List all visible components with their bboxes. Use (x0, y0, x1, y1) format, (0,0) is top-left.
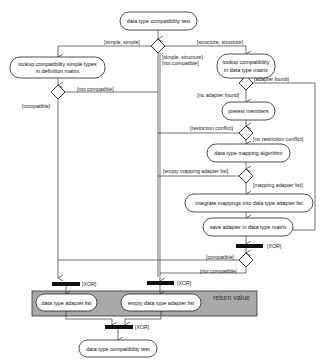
decision-type-check (151, 39, 165, 53)
guard-compatible-right: [compatible] (206, 254, 235, 260)
svg-text:pretest members: pretest members (228, 108, 269, 114)
guard-not-compatible-right: [not compatible] (200, 268, 237, 274)
decision-restriction (239, 126, 253, 140)
xor-label-left: [XOR] (82, 281, 97, 287)
xor-label-middle: [XOR] (177, 280, 192, 286)
guard-compatible-left: [compatible] (22, 103, 51, 109)
guard-structure-structure: [structure, structure] (197, 39, 244, 45)
decision-mapping-list (239, 169, 253, 183)
node-integrate-mappings: integrate mappings into data type adapte… (185, 194, 313, 212)
guard-no-adapter-found: [no adapter found] (197, 92, 240, 98)
svg-text:data type compatibility test: data type compatibility test (86, 346, 150, 352)
guard-no-restriction-conflict: [no restriction conflict] (253, 136, 304, 142)
node-lookup-simple: lookup compatibility simple types in def… (10, 57, 105, 78)
svg-text:lookup compatibility: lookup compatibility (222, 59, 269, 65)
svg-text:data type compatibility test: data type compatibility test (127, 18, 191, 24)
svg-text:in definition matrix: in definition matrix (36, 68, 80, 74)
node-mapping-algorithm: data type mapping algorithm (207, 144, 290, 162)
svg-text:data type mapping algorithm: data type mapping algorithm (214, 150, 283, 156)
xor-bar-left (52, 282, 80, 286)
guard-not-compatible-1: [not compatible] (162, 60, 199, 66)
xor-bar-bottom (105, 325, 133, 329)
node-adapter-list: data type adapter list (36, 294, 97, 311)
guard-simple-simple: [simple, simple] (104, 39, 140, 45)
xor-label-right: [XOR] (267, 243, 282, 249)
node-empty-adapter-list: empty data type adapter list (121, 294, 201, 311)
decision-final-compat (239, 253, 253, 267)
node-pretest-members: pretest members (222, 102, 275, 120)
xor-bar-right (236, 244, 263, 248)
svg-text:integrate mappings into data t: integrate mappings into data type adapte… (195, 200, 303, 206)
guard-empty-mapping-adapter-list: [empty mapping adapter list] (163, 168, 229, 174)
guard-mapping-adapter-list: [mapping adapter list] (253, 182, 303, 188)
svg-text:data type adapter list: data type adapter list (41, 300, 92, 306)
decision-simple-compat (51, 85, 65, 99)
node-save-adapter: save adapter in data type matrix (203, 218, 293, 236)
svg-text:lookup compatibility simple ty: lookup compatibility simple types (18, 61, 97, 67)
guard-restriction-conflict: [restriction conflict] (190, 125, 234, 131)
xor-bar-middle (147, 281, 174, 285)
guard-adapter-found: [adapter found] (254, 76, 289, 82)
svg-text:in data type matrix: in data type matrix (224, 67, 268, 73)
activity-diagram: return value (0, 0, 326, 364)
partition-label: return value (213, 294, 250, 301)
guard-not-compatible-2: [not compatible] (77, 86, 114, 92)
node-lookup-matrix: lookup compatibility in data type matrix (217, 54, 275, 78)
svg-text:empty data type adapter list: empty data type adapter list (128, 300, 195, 306)
svg-text:save adapter in data type matr: save adapter in data type matrix (210, 224, 287, 230)
xor-label-bottom: [XOR] (135, 324, 150, 330)
start-node: data type compatibility test (120, 12, 197, 30)
end-node: data type compatibility test (79, 340, 157, 357)
